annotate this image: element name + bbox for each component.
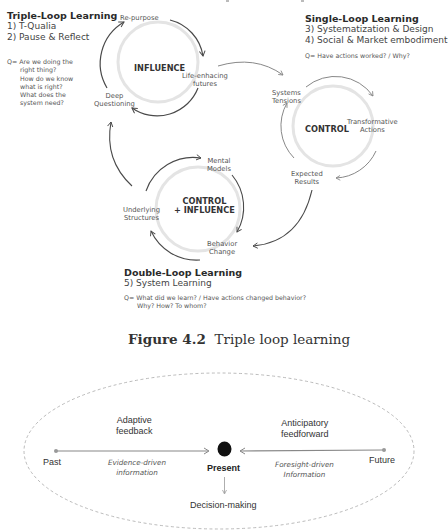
connector-double-to-influence (110, 122, 132, 186)
anticipatory-feedforward-label: Anticipatory feedforward (281, 418, 329, 440)
past-label: Past (43, 457, 61, 468)
single-loop-question: Q= Have actions worked? / Why? (305, 52, 448, 60)
q-line-1: Are we doing the (19, 58, 73, 65)
foresight-driven-label: Foresight-driven Information (275, 460, 334, 480)
future-label: Future (369, 455, 395, 466)
cut-off-title-fragments (226, 0, 304, 2)
control-center-label: CONTROL (305, 125, 349, 134)
double-loop-question-1: Q= What did we learn? / Have actions cha… (124, 294, 306, 302)
single-loop-title: Single-Loop Learning (305, 13, 448, 24)
figure-label: Figure 4.2 (128, 331, 206, 347)
future-to-present-arrow (240, 450, 384, 451)
triple-loop-legend: Triple-Loop Learning 1) T-Qualia 2) Paus… (7, 10, 117, 43)
adaptive-feedback-label: Adaptive feedback (116, 415, 153, 437)
connector-control-to-double (253, 190, 312, 246)
q-line-3: How do we know (7, 75, 73, 83)
double-loop-legend: Double-Loop Learning 5) System Learning … (124, 267, 306, 311)
q-prefix: Q= (7, 58, 17, 65)
present-label: Present (207, 463, 240, 473)
node-re-purpose: Re-purpose (120, 14, 159, 22)
future-dot (382, 448, 386, 452)
node-mental-models: Mental Models (207, 157, 231, 173)
triple-loop-item-1: 1) T-Qualia (7, 21, 117, 32)
node-expected-results: Expected Results (291, 170, 323, 186)
single-loop-item-1: 3) Systematization & Design (305, 24, 448, 35)
double-loop-question-2: Why? How? To whom? (124, 302, 306, 310)
node-systems-tensions: Systems Tensions (272, 89, 301, 105)
influence-center-label: INFLUENCE (134, 64, 185, 73)
triple-loop-item-2: 2) Pause & Reflect (7, 32, 117, 43)
node-transformative-actions: Transformative Actions (347, 118, 398, 134)
q-line-2: right thing? (7, 66, 73, 74)
node-life-enhancing-futures: Life-enhacing futures (182, 72, 228, 88)
control-influence-center-label: CONTROL + INFLUENCE (174, 197, 235, 215)
single-loop-item-2: 4) Social & Market embodiment (305, 35, 448, 46)
node-behavior-change: Behavior Change (207, 240, 237, 256)
past-dot (54, 449, 58, 453)
present-dot (218, 442, 232, 457)
triple-loop-questions: Q= Are we doing the right thing? How do … (7, 58, 73, 108)
figure-title: Triple loop learning (214, 331, 350, 347)
evidence-driven-label: Evidence-driven information (108, 458, 166, 478)
triple-loop-title: Triple-Loop Learning (7, 10, 117, 21)
double-loop-item-1: 5) System Learning (124, 278, 306, 289)
double-loop-title: Double-Loop Learning (124, 267, 306, 278)
decision-making-label: Decision-making (190, 500, 257, 511)
node-underlying-structures: Underlying Structures (123, 206, 160, 222)
q-line-4: what is right? (7, 83, 73, 91)
figure-caption: Figure 4.2 Triple loop learning (128, 331, 350, 347)
single-loop-legend: Single-Loop Learning 3) Systematization … (305, 13, 448, 60)
q-line-5: What does the (7, 91, 73, 99)
q-line-6: system need? (7, 99, 73, 107)
node-deep-questioning: Deep Questioning (94, 92, 135, 108)
